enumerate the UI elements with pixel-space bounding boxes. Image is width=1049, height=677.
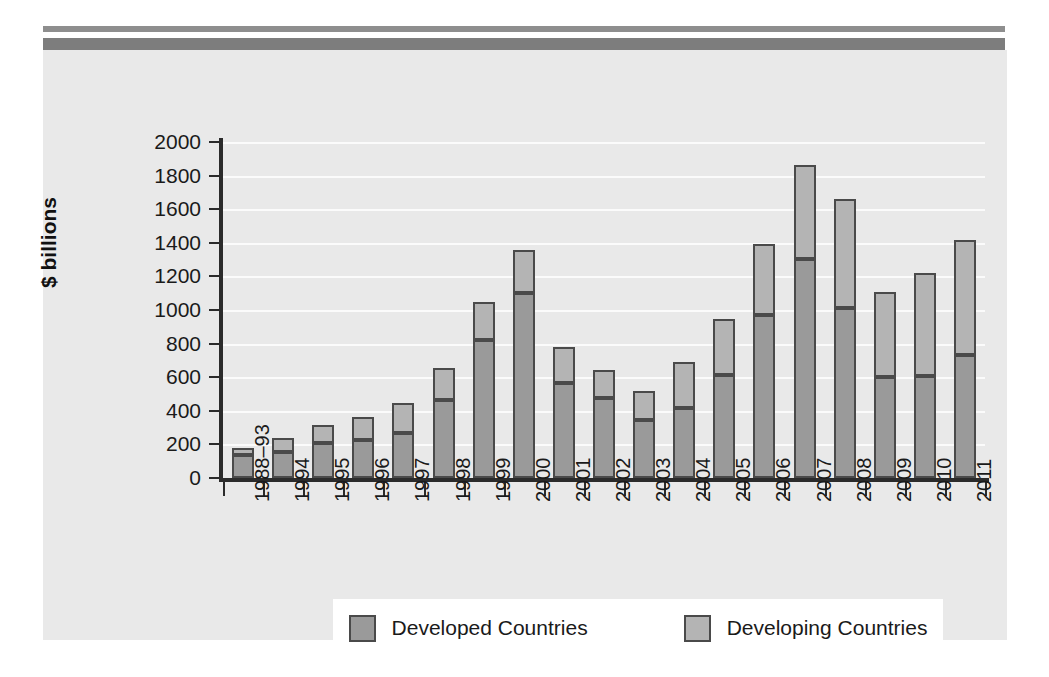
- bar-segment-developing[interactable]: [633, 391, 655, 420]
- legend-item-developed: Developed Countries: [349, 615, 588, 642]
- legend-item-developing: Developing Countries: [684, 615, 928, 642]
- x-axis-tick-label: 1988–93: [251, 424, 274, 502]
- x-axis-tick-label: 2005: [732, 458, 755, 503]
- bar-group[interactable]: [914, 273, 936, 478]
- y-axis-tick-label: 1200: [131, 265, 201, 286]
- y-axis-tick-label: 1400: [131, 232, 201, 253]
- bar-group[interactable]: [753, 244, 775, 478]
- legend-label-developed: Developed Countries: [392, 616, 588, 640]
- x-axis-tick-label: 1998: [452, 458, 475, 503]
- x-axis-tick-label: 1999: [492, 458, 515, 503]
- y-axis-tick-label: 1800: [131, 165, 201, 186]
- bar-segment-developing[interactable]: [513, 250, 535, 293]
- chart-panel: $ billions 02004006008001000120014001600…: [43, 50, 1007, 640]
- bar-segment-developed[interactable]: [834, 308, 856, 478]
- bar-segment-developing[interactable]: [954, 240, 976, 355]
- bar-segment-developed[interactable]: [753, 315, 775, 478]
- x-axis-tick-label: 2009: [893, 458, 916, 503]
- bar-group[interactable]: [713, 319, 735, 478]
- bar-group[interactable]: [874, 292, 896, 478]
- x-axis-tick-label: 2008: [853, 458, 876, 503]
- x-axis-tick-label: 2006: [772, 458, 795, 503]
- plot-area: [223, 142, 985, 478]
- bar-segment-developing[interactable]: [593, 370, 615, 398]
- x-axis-tick-label: 1995: [331, 458, 354, 503]
- bar-segment-developing[interactable]: [874, 292, 896, 378]
- x-axis-tick-label: 2011: [973, 459, 996, 502]
- x-axis-tick-label: 2000: [532, 458, 555, 503]
- bar-segment-developing[interactable]: [312, 425, 334, 443]
- bar-group[interactable]: [473, 302, 495, 478]
- bar-segment-developing[interactable]: [794, 165, 816, 259]
- y-axis-tick-label: 800: [131, 333, 201, 354]
- x-axis-tick-label: 2002: [612, 458, 635, 503]
- gridline: [223, 310, 985, 312]
- legend-swatch-developed: [349, 615, 376, 642]
- x-axis-tick-label: 2004: [692, 458, 715, 503]
- gridline: [223, 176, 985, 178]
- figure: $ billions 02004006008001000120014001600…: [0, 0, 1049, 677]
- bar-group[interactable]: [834, 199, 856, 478]
- x-axis-tick-label: 2010: [933, 458, 956, 503]
- bar-segment-developing[interactable]: [914, 273, 936, 375]
- x-axis-tick-label: 2003: [652, 458, 675, 503]
- gridline: [223, 243, 985, 245]
- bar-segment-developing[interactable]: [352, 417, 374, 441]
- bar-group[interactable]: [794, 165, 816, 478]
- decorative-rule-thin: [43, 26, 1005, 32]
- bar-segment-developing[interactable]: [272, 438, 294, 452]
- bar-segment-developing[interactable]: [673, 362, 695, 408]
- y-axis-title: $ billions: [37, 197, 61, 288]
- gridline: [223, 276, 985, 278]
- gridline: [223, 209, 985, 211]
- legend-swatch-developing: [684, 615, 711, 642]
- bar-segment-developing[interactable]: [433, 368, 455, 400]
- gridline: [223, 142, 985, 144]
- bar-segment-developing[interactable]: [473, 302, 495, 341]
- y-axis-tick-label: 2000: [131, 131, 201, 152]
- bar-segment-developing[interactable]: [753, 244, 775, 315]
- y-axis-tick-label: 1600: [131, 198, 201, 219]
- gridline: [223, 344, 985, 346]
- bar-segment-developing[interactable]: [834, 199, 856, 308]
- bar-group[interactable]: [513, 250, 535, 478]
- x-axis-tick-label: 1997: [411, 458, 434, 503]
- y-axis-tick-label: 1000: [131, 299, 201, 320]
- bar-group[interactable]: [954, 240, 976, 478]
- bar-segment-developing[interactable]: [553, 347, 575, 383]
- chart-legend: Developed Countries Developing Countries: [333, 599, 943, 657]
- bar-segment-developed[interactable]: [794, 259, 816, 478]
- decorative-rule-thick: [43, 38, 1005, 50]
- x-axis-tick-label: 1994: [291, 458, 314, 503]
- y-axis-tick-label: 0: [131, 467, 201, 488]
- x-axis-tick-label: 1996: [371, 458, 394, 503]
- y-axis-tick-label: 400: [131, 400, 201, 421]
- y-axis-tick-label: 200: [131, 433, 201, 454]
- bar-segment-developing[interactable]: [392, 403, 414, 433]
- bar-segment-developing[interactable]: [713, 319, 735, 374]
- x-axis-tick: [223, 482, 225, 496]
- bar-segment-developed[interactable]: [513, 293, 535, 478]
- x-axis-tick-label: 2007: [813, 458, 836, 503]
- y-axis-tick-label: 600: [131, 366, 201, 387]
- legend-label-developing: Developing Countries: [727, 616, 928, 640]
- x-axis-tick-label: 2001: [572, 458, 595, 503]
